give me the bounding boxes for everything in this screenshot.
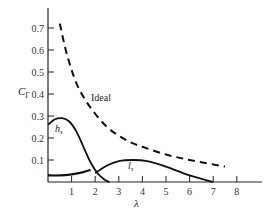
x-tick-label: 4 <box>140 186 145 197</box>
x-tick-label: 8 <box>234 186 239 197</box>
x-tick-label: 6 <box>187 186 192 197</box>
x-tick-label: 3 <box>116 186 121 197</box>
ideal-label: Ideal <box>91 92 111 103</box>
y-tick-label: 0.6 <box>32 45 45 56</box>
x-tick-label: 1 <box>69 186 74 197</box>
x-axis-title: λ <box>133 197 139 209</box>
hs-label: hs <box>55 123 63 136</box>
y-axis-title: CΓ <box>18 85 30 100</box>
y-tick-label: 0.7 <box>32 23 45 34</box>
x-tick-label: 2 <box>93 186 98 197</box>
y-tick-label: 0.4 <box>32 89 45 100</box>
ls-curve-segment-1 <box>48 170 90 176</box>
ls-curve-segment-2 <box>95 160 213 182</box>
ideal-curve <box>60 24 225 167</box>
y-tick-label: 0.2 <box>32 133 45 144</box>
y-tick-label: 0.3 <box>32 111 45 122</box>
x-tick-label: 7 <box>211 186 216 197</box>
y-ticks: 0.10.20.30.40.50.60.7 <box>32 23 55 166</box>
y-tick-label: 0.5 <box>32 67 45 78</box>
x-tick-label: 5 <box>164 186 169 197</box>
chart: 0.10.20.30.40.50.60.7 12345678 CΓ λ Idea… <box>0 0 274 218</box>
ls-label: ls <box>128 160 134 173</box>
y-tick-label: 0.1 <box>32 155 45 166</box>
x-ticks: 12345678 <box>69 176 239 197</box>
